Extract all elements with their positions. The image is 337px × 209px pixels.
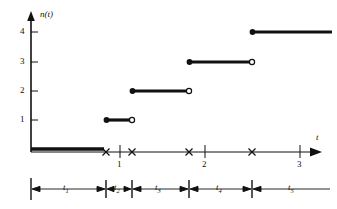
interval-arrow-2-right [124,186,131,191]
interval-arrow-5-left [253,186,261,191]
interval-label-4-sub: 4 [219,187,222,194]
interval-arrow-1-right [97,186,105,191]
interval-arrow-1-left [32,186,40,191]
step-endpoint-filled-2 [130,88,136,94]
interval-arrow-3-right [180,186,188,191]
x-tick-label-3: 3 [297,160,302,169]
step-endpoint-open-2 [186,88,191,93]
step-function-chart [0,0,337,209]
interval-arrow-3-left [133,186,141,191]
interval-arrow-4-right [243,186,251,191]
y-tick-label-3: 3 [20,57,25,66]
interarrival-ruler [31,178,330,200]
y-axis-arrowhead [27,11,35,21]
y-tick-label-4: 4 [20,27,25,36]
step-segments [31,29,332,149]
interval-label-1-sub: 1 [66,187,69,194]
interval-arrow-4-left [190,186,198,191]
interval-label-3: t3 [155,183,161,194]
interval-label-4: t4 [216,183,222,194]
interval-label-1: t1 [63,183,69,194]
y-tick-label-1: 1 [20,115,25,124]
x-tick-label-1: 1 [117,160,122,169]
step-endpoint-filled-4 [250,29,256,35]
step-endpoint-filled-1 [104,117,110,123]
x-axis-label: t [316,133,319,142]
interval-label-2: t2 [114,183,120,194]
y-axis-label: n(t) [40,10,53,19]
step-endpoint-open-3 [249,59,254,64]
interval-label-3-sub: 3 [158,187,161,194]
x-tick-label-2: 2 [202,160,207,169]
interval-arrow-2-left [107,186,114,191]
interval-label-2-sub: 2 [117,187,120,194]
interval-label-5-sub: 5 [291,187,294,194]
interval-label-5: t5 [288,183,294,194]
y-tick-label-2: 2 [20,86,25,95]
y-tick-marks [31,32,38,120]
step-endpoint-filled-3 [187,59,193,65]
step-endpoint-open-1 [129,117,134,122]
x-axis-arrowhead [310,148,322,157]
